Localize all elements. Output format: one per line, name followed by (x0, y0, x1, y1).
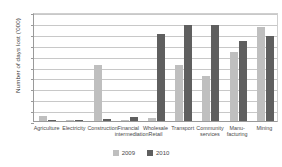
bar-group (61, 14, 88, 121)
bar (266, 36, 274, 121)
bar (202, 76, 210, 121)
bar (94, 65, 102, 121)
bar-group (225, 14, 252, 121)
legend-label: 2009 (122, 150, 135, 156)
bar (157, 34, 165, 121)
legend-item[interactable]: 2009 (113, 150, 135, 156)
legend-swatch-icon (113, 150, 119, 156)
bar-group (197, 14, 224, 121)
bar-group (143, 14, 170, 121)
x-axis-tick-label: Manu- facturing (224, 125, 251, 137)
bar (257, 27, 265, 121)
plot-area (33, 13, 278, 122)
legend-label: 2010 (156, 150, 169, 156)
x-axis-tick-label: Construction (87, 125, 114, 131)
x-axis-tick-label: Mining (251, 125, 278, 131)
bar (39, 116, 47, 121)
x-axis-tick-label: Wholesale Retail (142, 125, 169, 137)
bar (148, 118, 156, 121)
bar-group (34, 14, 61, 121)
chart-legend: 20092010 (0, 150, 282, 156)
legend-swatch-icon (147, 150, 153, 156)
bar (184, 25, 192, 121)
bar (48, 120, 56, 121)
x-axis-tick-label: Agriculture (33, 125, 60, 131)
bar (130, 117, 138, 121)
legend-item[interactable]: 2010 (147, 150, 169, 156)
y-axis-title: Number of days lost ('000) (14, 1, 21, 111)
bar-group (252, 14, 279, 121)
x-axis-tick-label: Transport (169, 125, 196, 131)
bar (66, 120, 74, 121)
bar (239, 41, 247, 121)
bar (121, 120, 129, 121)
x-axis-tick-label: Financial intermediation (115, 125, 142, 137)
bar-group (88, 14, 115, 121)
bar-group (116, 14, 143, 121)
bar-chart: Number of days lost ('000) 0501001502002… (0, 0, 282, 167)
bar-group (170, 14, 197, 121)
bar (211, 25, 219, 121)
bar (103, 119, 111, 121)
bar (230, 52, 238, 121)
bar (75, 120, 83, 121)
y-axis-tick-mark (31, 123, 34, 124)
x-axis-tick-label: Community services (196, 125, 223, 137)
bar (175, 65, 183, 121)
x-axis-tick-label: Electricity (60, 125, 87, 131)
